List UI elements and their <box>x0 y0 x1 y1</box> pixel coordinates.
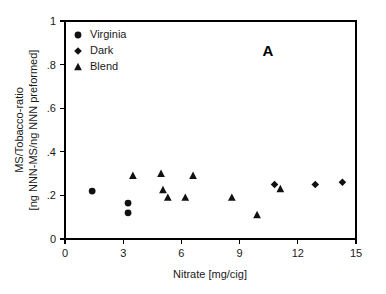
data-point-blend-3 <box>164 193 172 200</box>
x-tick-label-5: 15 <box>350 247 362 259</box>
y-tick-label-5: 1 <box>50 15 56 27</box>
data-point-blend-4 <box>181 193 189 200</box>
chart-figure: 03691215 0.2.4.6.81 Nitrate [mg/cig] MS/… <box>0 0 386 294</box>
y-axis-ticks <box>60 21 65 239</box>
legend-label-virginia: Virginia <box>90 28 127 40</box>
data-point-dark-2 <box>339 179 347 187</box>
x-tick-label-0: 0 <box>62 247 68 259</box>
y-tick-label-3: .6 <box>47 102 56 114</box>
x-tick-label-1: 3 <box>120 247 126 259</box>
panel-label-a: A <box>263 42 274 59</box>
data-point-virginia-0 <box>89 188 96 195</box>
y-axis-title-line2: [ng NNN-MS/ng NNN preformed] <box>27 50 39 211</box>
x-axis-title: Nitrate [mg/cig] <box>173 268 247 280</box>
data-point-blend-8 <box>276 185 284 192</box>
legend-label-dark: Dark <box>90 44 114 56</box>
x-axis-tick-labels: 03691215 <box>62 247 362 259</box>
y-tick-label-0: 0 <box>50 233 56 245</box>
data-point-blend-7 <box>253 211 261 218</box>
x-axis-ticks <box>65 239 356 244</box>
y-tick-label-1: .2 <box>47 189 56 201</box>
y-tick-label-2: .4 <box>47 146 56 158</box>
legend-marker-dark <box>74 47 82 55</box>
data-point-virginia-2 <box>125 209 132 216</box>
data-point-dark-0 <box>271 181 279 189</box>
legend-marker-blend <box>74 63 82 70</box>
x-tick-label-2: 6 <box>178 247 184 259</box>
x-tick-label-3: 9 <box>237 247 243 259</box>
y-tick-label-4: .8 <box>47 59 56 71</box>
data-point-blend-5 <box>189 172 197 179</box>
data-point-blend-2 <box>159 186 167 193</box>
data-point-blend-6 <box>228 193 236 200</box>
chart-legend: VirginiaDarkBlend <box>74 28 127 72</box>
data-point-blend-0 <box>129 172 137 179</box>
data-point-dark-1 <box>311 181 319 189</box>
legend-label-blend: Blend <box>90 60 118 72</box>
x-tick-label-4: 12 <box>292 247 304 259</box>
data-point-virginia-1 <box>125 200 132 207</box>
y-axis-tick-labels: 0.2.4.6.81 <box>47 15 56 245</box>
scatter-plot-svg: 03691215 0.2.4.6.81 Nitrate [mg/cig] MS/… <box>0 0 386 294</box>
y-axis-title-line1: MS/Tobacco-ratio <box>13 87 25 173</box>
data-points-layer <box>89 169 346 218</box>
legend-marker-virginia <box>75 32 82 39</box>
data-point-blend-1 <box>157 169 165 176</box>
